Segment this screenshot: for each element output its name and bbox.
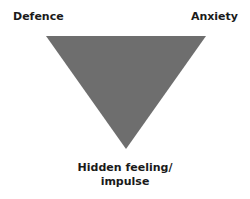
hidden-feeling-line1: Hidden feeling/ bbox=[0, 161, 250, 175]
hidden-feeling-label: Hidden feeling/ impulse bbox=[0, 161, 250, 189]
defence-label: Defence bbox=[13, 10, 64, 24]
hidden-feeling-line2: impulse bbox=[0, 175, 250, 189]
anxiety-label: Anxiety bbox=[191, 10, 238, 24]
inverted-triangle bbox=[46, 36, 206, 149]
